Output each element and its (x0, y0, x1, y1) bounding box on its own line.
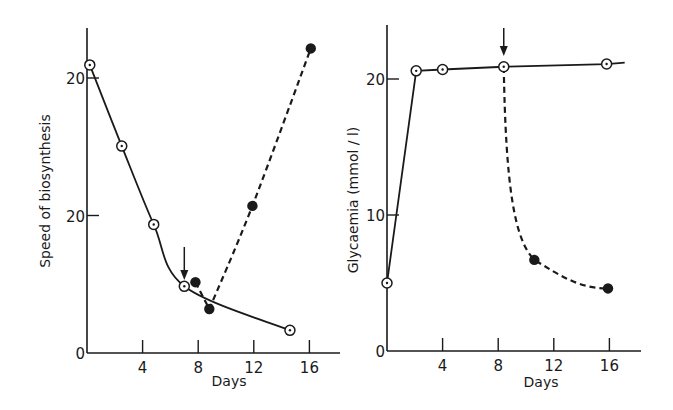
x-tick-label: 8 (493, 357, 503, 375)
filled-circle-marker (529, 255, 539, 265)
y-tick-label: 20 (366, 71, 385, 89)
open-circle-dot (441, 68, 443, 70)
open-circle-dot (415, 70, 417, 72)
x-tick-label: 16 (600, 357, 619, 375)
filled-circle-marker (306, 43, 316, 53)
figure: 48121602020DaysSpeed of biosynthesis 481… (0, 0, 673, 410)
open-circle-dot (89, 64, 91, 66)
y-tick-label: 0 (75, 345, 85, 363)
solid-series-line (90, 65, 290, 330)
x-tick-label: 8 (193, 359, 203, 377)
x-tick-label: 12 (244, 359, 263, 377)
filled-circle-marker (603, 283, 613, 293)
filled-circle-marker (247, 201, 257, 211)
open-circle-dot (153, 223, 155, 225)
open-circle-dot (503, 66, 505, 68)
y-tick-label: 0 (375, 343, 385, 361)
solid-series-line (387, 63, 625, 283)
y-tick-label: 20 (66, 70, 85, 88)
right-chart-glycaemia: 48121601020DaysGlycaemia (mmol / l) (345, 25, 641, 390)
dashed-series-line (504, 67, 608, 289)
x-tick-label: 12 (544, 357, 563, 375)
open-circle-dot (289, 329, 291, 331)
open-circle-dot (183, 285, 185, 287)
x-axis-label: Days (524, 374, 559, 390)
x-tick-label: 4 (138, 359, 148, 377)
y-axis-label: Glycaemia (mmol / l) (345, 127, 361, 274)
filled-circle-marker (204, 304, 214, 314)
open-circle-dot (386, 282, 388, 284)
arrow-head-icon (500, 46, 508, 56)
arrow-head-icon (180, 270, 188, 280)
y-tick-label: 10 (366, 207, 385, 225)
y-axis-label: Speed of biosynthesis (37, 114, 53, 268)
x-tick-label: 4 (438, 357, 448, 375)
left-chart-speed-of-biosynthesis: 48121602020DaysSpeed of biosynthesis (37, 28, 340, 389)
x-tick-label: 16 (300, 359, 319, 377)
open-circle-dot (605, 63, 607, 65)
open-circle-dot (121, 145, 123, 147)
dashed-series-line (195, 48, 310, 309)
filled-circle-marker (190, 277, 200, 287)
y-tick-label: 20 (66, 208, 85, 226)
x-axis-label: Days (212, 373, 247, 389)
